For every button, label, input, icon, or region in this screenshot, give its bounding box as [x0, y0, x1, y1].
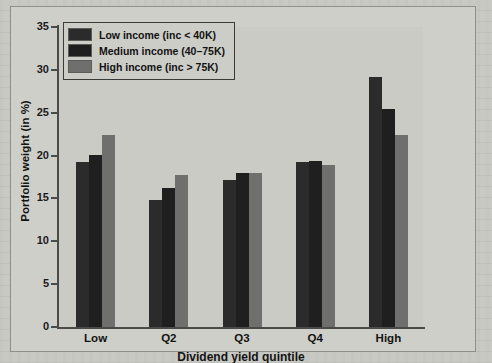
bar — [149, 200, 162, 327]
y-axis-tick-label: 5 — [13, 278, 49, 289]
x-axis-title: Dividend yield quintile — [57, 350, 425, 363]
chart-legend: Low income (inc < 40K) Medium income (40… — [63, 22, 235, 80]
bar — [249, 173, 262, 327]
bar — [162, 188, 175, 327]
legend-swatch-medium-income — [68, 44, 92, 57]
x-axis-tick-label: Q4 — [280, 332, 350, 344]
bar — [102, 135, 115, 327]
legend-item: High income (inc > 75K) — [68, 59, 229, 74]
bar — [175, 175, 188, 327]
legend-label-low-income: Low income (inc < 40K) — [99, 29, 216, 41]
legend-item: Low income (inc < 40K) — [68, 27, 229, 42]
bar — [382, 109, 395, 327]
screenshot-root: 05101520253035 Portfolio weight (in %) L… — [0, 0, 492, 363]
x-axis-tick-label: Low — [61, 332, 131, 344]
bar — [369, 77, 382, 327]
y-axis-tick — [51, 326, 58, 328]
legend-label-high-income: High income (inc > 75K) — [99, 61, 218, 73]
y-axis-tick-label: 35 — [13, 21, 49, 32]
bar — [89, 155, 102, 327]
x-axis-tick-label: Q2 — [134, 332, 204, 344]
bar — [236, 173, 249, 327]
y-axis-tick-label: 0 — [13, 321, 49, 332]
y-axis-tick — [51, 283, 58, 285]
x-axis-tick-label: Q3 — [207, 332, 277, 344]
legend-swatch-low-income — [68, 28, 92, 41]
figure-panel: 05101520253035 Portfolio weight (in %) L… — [10, 6, 476, 352]
x-axis-line — [57, 327, 425, 329]
y-axis-tick — [51, 240, 58, 242]
y-axis-tick — [51, 155, 58, 157]
bar — [296, 162, 309, 327]
y-axis-tick-label-text: 35 — [19, 21, 49, 32]
y-axis-tick — [51, 197, 58, 199]
bar — [223, 180, 236, 327]
y-axis-tick — [51, 26, 58, 28]
y-axis-tick — [51, 112, 58, 114]
legend-label-medium-income: Medium income (40–75K) — [99, 45, 225, 57]
x-axis-tick-label: High — [353, 332, 423, 344]
y-axis-tick — [51, 69, 58, 71]
bar — [322, 165, 335, 327]
y-axis-tick-label-text: 5 — [19, 278, 49, 289]
legend-swatch-high-income — [68, 60, 92, 73]
y-axis-tick-label-text: 0 — [19, 321, 49, 332]
y-axis-title: Portfolio weight (in %) — [19, 61, 31, 261]
bar — [309, 161, 322, 327]
legend-item: Medium income (40–75K) — [68, 43, 229, 58]
bar — [395, 135, 408, 327]
bar — [76, 162, 89, 327]
